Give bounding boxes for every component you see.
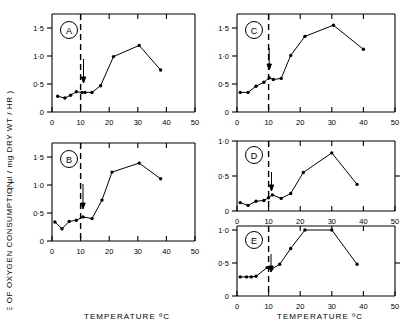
panel-c-ytick-1: 0·5 [218,80,229,89]
panel-b-data-points [53,161,162,230]
panel-a-xtick-5: 50 [191,118,199,127]
panel-a-plot: 0 0·5 1·0 1·5 0 10 20 30 40 50 [22,6,200,132]
panel-c-axes [237,14,395,112]
panel-c-plot: 0 0·5 1·0 1·5 0 10 20 30 40 50 [205,6,403,132]
panel-e-xtick-4: 40 [359,302,367,311]
panel-b-xtick-1: 10 [76,247,84,256]
panel-c-xtick-1: 10 [264,118,272,127]
panel-d-data-line [240,153,357,206]
panel-b-ytick-0: 0 [40,237,44,246]
panel-c-ytick-2: 1·0 [218,52,229,61]
panel-c-arrow [267,48,271,70]
panel-e-label-text: E [251,236,257,246]
panel-e-xtick-3: 30 [328,302,336,311]
panel-a-data-line [58,45,161,98]
panel-c-ytick-labels: 0 0·5 1·0 1·5 [218,24,229,117]
panel-c-xtick-labels: 0 10 20 30 40 50 [235,118,399,127]
panel-b-xtick-5: 50 [191,247,199,256]
y-axis-label-rate: RATE OF OXYGEN CONSUMPTION [5,181,14,310]
panel-e-xtick-2: 20 [296,302,304,311]
panel-e-ytick-1: 0·5 [218,259,229,268]
panel-a-xtick-3: 30 [134,118,142,127]
panel-c-ytick-3: 1·5 [218,24,229,33]
panel-a-data-points [56,44,162,100]
panel-e: 0 0·5 1·0 0 10 20 30 40 50 [205,218,403,316]
panel-b-ytick-2: 1·0 [33,181,44,190]
panel-c-xtick-0: 0 [235,118,239,127]
panel-e-label-badge: E [246,232,263,249]
panel-e-ytick-2: 1·0 [218,226,229,235]
panel-b: 0 0·5 1·0 1·5 0 10 20 30 40 50 [22,135,200,261]
panel-e-ytick-labels: 0 0·5 1·0 [218,226,229,301]
panel-d-ytick-2: 1·0 [218,137,229,146]
panel-a-ytick-3: 1·5 [33,24,44,33]
panel-a-xtick-4: 40 [162,118,170,127]
panel-d-arrow [269,172,273,191]
panel-b-plot: 0 0·5 1·0 1·5 0 10 20 30 40 50 [22,135,200,261]
y-axis-label-svg: ( µl / mg DRY WT / HR ) RATE OF OXYGEN C… [0,0,20,310]
panel-c-data-points [239,24,366,95]
panel-b-arrow [81,184,85,209]
panel-e-xtick-labels: 0 10 20 30 40 50 [235,302,399,311]
panel-e-xtick-1: 10 [264,302,272,311]
x-axis-label-right: TEMPERATURE ºC [245,312,395,321]
panel-b-ytick-3: 1·5 [33,153,44,162]
panel-e-data-line [240,230,357,277]
panel-b-axes [52,143,195,241]
panel-b-ytick-1: 0·5 [33,209,44,218]
panel-c-ytick-0: 0 [225,108,229,117]
panel-d-ytick-0: 0 [225,207,229,216]
panel-c-xtick-5: 50 [391,118,399,127]
panel-a-xtick-0: 0 [50,118,54,127]
panel-b-label-text: B [66,155,72,165]
panel-c-xtick-2: 20 [296,118,304,127]
panel-b-label-badge: B [61,151,78,168]
panel-e-xtick-5: 50 [391,302,399,311]
panel-a-label-text: A [66,26,72,36]
panel-e-xtick-0: 0 [235,302,239,311]
panel-c-label-text: C [251,26,258,36]
panel-d: 0 0·5 1·0 0 10 20 30 40 50 [205,133,403,231]
panel-e-ytick-0: 0 [225,292,229,301]
panel-a-xtick-labels: 0 10 20 30 40 50 [50,118,199,127]
panel-e-axes [237,226,395,296]
panel-a-ytick-labels: 0 0·5 1·0 1·5 [33,24,44,117]
panel-a-ytick-0: 0 [40,108,44,117]
panel-a-xtick-1: 10 [76,118,84,127]
panel-c: 0 0·5 1·0 1·5 0 10 20 30 40 50 [205,6,403,132]
figure-root: ( µl / mg DRY WT / HR ) RATE OF OXYGEN C… [0,0,406,334]
panel-a-ytick-2: 1·0 [33,52,44,61]
panel-d-ytick-1: 0·5 [218,172,229,181]
panel-b-xtick-0: 0 [50,247,54,256]
panel-d-label-badge: D [246,147,263,164]
panel-a-ytick-1: 0·5 [33,80,44,89]
x-axis-label-left: TEMPERATURE ºC [52,312,202,321]
panel-b-xtick-2: 20 [105,247,113,256]
panel-e-ticks [232,226,400,296]
panel-b-data-line [55,163,161,229]
panel-d-plot: 0 0·5 1·0 0 10 20 30 40 50 [205,133,403,231]
panel-a: 0 0·5 1·0 1·5 0 10 20 30 40 50 [22,6,200,132]
panel-a-label-badge: A [61,22,78,39]
panel-d-ytick-labels: 0 0·5 1·0 [218,137,229,216]
y-axis-label-container: ( µl / mg DRY WT / HR ) RATE OF OXYGEN C… [0,0,20,310]
panel-c-xtick-3: 30 [328,118,336,127]
panel-c-label-badge: C [246,22,263,39]
panel-b-ytick-labels: 0 0·5 1·0 1·5 [33,153,44,246]
panel-a-arrow [81,59,85,83]
panel-a-xtick-2: 20 [105,118,113,127]
panel-c-xtick-4: 40 [359,118,367,127]
panel-b-xtick-4: 40 [162,247,170,256]
panel-b-xtick-labels: 0 10 20 30 40 50 [50,247,199,256]
y-axis-label-units: ( µl / mg DRY WT / HR ) [5,90,14,189]
panel-d-label-text: D [251,151,258,161]
panel-c-data-line [240,25,363,92]
panel-e-plot: 0 0·5 1·0 0 10 20 30 40 50 [205,218,403,316]
panel-b-xtick-3: 30 [134,247,142,256]
panel-a-axes [52,14,195,112]
